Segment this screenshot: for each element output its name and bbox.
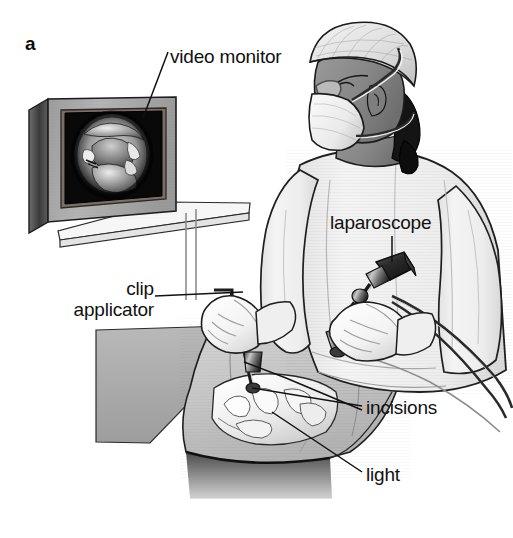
figure-panel-a: a video monitor laparoscope clip applica… <box>0 0 513 538</box>
label-laparoscope: laparoscope <box>330 212 431 233</box>
label-light: light <box>366 464 400 485</box>
label-clip-line1: clip <box>36 278 154 299</box>
illustration-canvas <box>0 0 513 538</box>
label-incisions: incisions <box>366 397 437 418</box>
label-clip-applicator: clip applicator <box>36 278 154 321</box>
panel-letter-a: a <box>25 33 36 55</box>
video-monitor <box>29 97 176 233</box>
label-clip-line2: applicator <box>36 299 154 320</box>
endoscopic-image <box>74 114 150 196</box>
label-video-monitor: video monitor <box>170 46 281 67</box>
